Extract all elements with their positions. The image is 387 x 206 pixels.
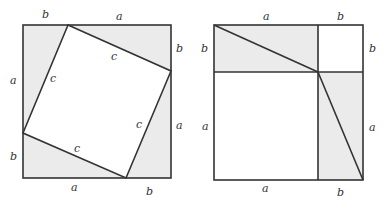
label-right-bottom-b: b: [337, 186, 344, 199]
label-left-bottom-a: a: [71, 181, 78, 194]
label-right-top-a: a: [263, 10, 270, 23]
label-c-bottom: c: [74, 142, 80, 155]
label-left-left-b: b: [10, 150, 17, 163]
label-right-left-b: b: [201, 42, 208, 55]
label-right-bottom-a: a: [262, 182, 269, 195]
label-left-right-b: b: [176, 42, 183, 55]
label-left-right-a: a: [176, 119, 183, 132]
label-left-top-b: b: [42, 8, 49, 21]
label-right-top-b: b: [337, 10, 344, 23]
label-left-left-a: a: [10, 74, 17, 87]
label-right-right-b: b: [369, 42, 376, 55]
label-right-right-a: a: [369, 121, 376, 134]
label-c-top: c: [111, 50, 117, 63]
label-c-right: c: [136, 118, 142, 131]
left-figure: b a b a a b a b c c c c: [10, 8, 183, 198]
pythagorean-proof-diagram: b a b a a b a b c c c c a b b b a a a b: [0, 0, 387, 206]
label-c-left: c: [50, 72, 56, 85]
label-left-bottom-b: b: [146, 185, 153, 198]
label-left-top-a: a: [116, 10, 123, 23]
right-figure: a b b b a a a b: [201, 10, 376, 199]
label-right-left-a: a: [202, 120, 209, 133]
